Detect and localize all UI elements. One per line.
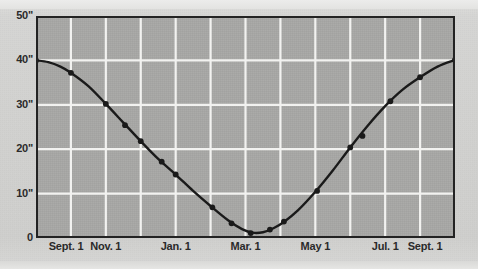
data-point-marker: [281, 219, 287, 225]
y-tick-label: 40": [16, 54, 33, 65]
data-point-marker: [417, 74, 423, 80]
bottom-margin: [0, 261, 478, 269]
data-point-marker: [103, 101, 109, 107]
plot-area: [36, 16, 455, 238]
data-point-marker: [159, 159, 165, 165]
top-margin: [0, 0, 478, 9]
data-point-marker: [267, 227, 273, 233]
data-point-marker: [122, 122, 128, 128]
x-tick-label: Mar. 1: [231, 241, 261, 252]
x-axis-labels: Sept. 1Nov. 1Jan. 1Mar. 1May 1Jul. 1Sept…: [0, 241, 478, 261]
data-point-marker: [347, 145, 353, 151]
data-point-marker: [173, 172, 179, 178]
x-tick-label: Sept. 1: [49, 241, 84, 252]
y-tick-label: 50": [16, 10, 33, 21]
y-axis-labels: 50"40"30"20"10"0: [0, 0, 33, 269]
x-tick-label: Jan. 1: [161, 241, 191, 252]
chart-svg: [36, 16, 455, 238]
x-tick-label: Sept. 1: [408, 241, 443, 252]
y-tick-label: 10": [16, 188, 33, 199]
data-point-marker: [388, 98, 394, 104]
x-tick-label: May 1: [301, 241, 331, 252]
data-point-marker: [248, 230, 254, 236]
x-tick-label: Jul. 1: [372, 241, 399, 252]
chart-page: 50"40"30"20"10"0 Sept. 1Nov. 1Jan. 1Mar.…: [0, 0, 478, 269]
data-point-marker: [314, 188, 320, 194]
data-point-marker: [68, 70, 74, 76]
data-point-marker: [360, 133, 366, 139]
x-tick-label: Nov. 1: [90, 241, 121, 252]
data-point-marker: [209, 204, 215, 210]
y-tick-label: 20": [16, 143, 33, 154]
data-point-marker: [36, 58, 39, 64]
data-point-marker: [138, 138, 144, 144]
data-point-marker: [229, 220, 235, 226]
y-tick-label: 30": [16, 99, 33, 110]
